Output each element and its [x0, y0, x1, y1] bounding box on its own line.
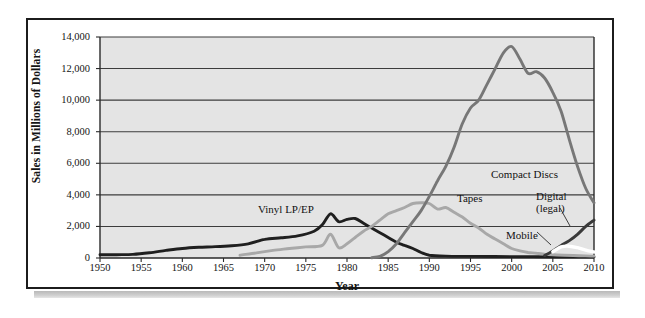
series-label-vinyl-lp-ep: Vinyl LP/EP [258, 203, 314, 215]
y-tick-label: 4,000 [44, 190, 90, 200]
x-tick-label: 1975 [286, 262, 326, 273]
series-label-digital: Digital [536, 190, 567, 202]
y-tick-label: 14,000 [44, 32, 90, 42]
line-chart: Sales in Millions of Dollars Year 02,000… [0, 0, 645, 318]
series-label-compact-discs: Compact Discs [491, 168, 558, 180]
y-tick-label: 8,000 [44, 127, 90, 137]
x-tick-label: 1980 [327, 262, 367, 273]
y-tick-label: 6,000 [44, 158, 90, 168]
y-axis-title: Sales in Millions of Dollars [30, 16, 42, 216]
y-tick-label: 2,000 [44, 221, 90, 231]
x-tick-label: 1995 [451, 262, 491, 273]
x-tick-label: 1965 [204, 262, 244, 273]
y-tick-label: 10,000 [44, 95, 90, 105]
x-tick-label: 1970 [245, 262, 285, 273]
x-tick-label: 1985 [368, 262, 408, 273]
x-tick-label: 2010 [574, 262, 614, 273]
x-tick-label: 1955 [121, 262, 161, 273]
series-label-mobile: Mobile [506, 229, 538, 241]
series-label-legal: (legal) [536, 202, 565, 214]
plot-background [100, 37, 594, 258]
x-tick-label: 1950 [80, 262, 120, 273]
x-tick-label: 1960 [162, 262, 202, 273]
y-tick-label: 12,000 [44, 64, 90, 74]
x-tick-label: 1990 [409, 262, 449, 273]
series-label-tapes: Tapes [457, 192, 483, 204]
x-tick-label: 2005 [533, 262, 573, 273]
x-axis-title: Year [100, 279, 594, 294]
x-tick-label: 2000 [492, 262, 532, 273]
